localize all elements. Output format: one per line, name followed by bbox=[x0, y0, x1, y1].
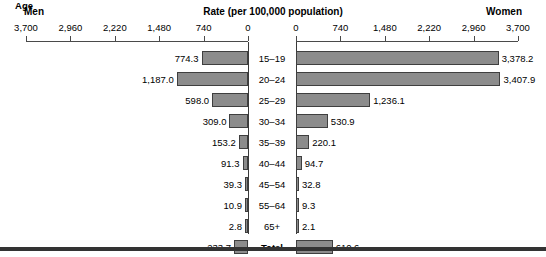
left-tick-label: 740 bbox=[196, 22, 212, 33]
chart-row: 598.025–291,236.1 bbox=[0, 90, 546, 111]
left-tick-mark bbox=[159, 36, 160, 41]
right-tick-mark bbox=[474, 36, 475, 41]
men-value-label: 1,187.0 bbox=[0, 69, 174, 90]
women-bar bbox=[296, 51, 499, 65]
chart-title: Rate (per 100,000 population) bbox=[0, 6, 546, 17]
left-tick-label: 2,220 bbox=[103, 22, 127, 33]
age-group-label: 25–29 bbox=[248, 90, 296, 111]
right-tick-mark bbox=[518, 36, 519, 41]
men-value-label: 598.0 bbox=[0, 90, 209, 111]
right-tick-mark bbox=[385, 36, 386, 41]
right-tick-label: 740 bbox=[332, 22, 348, 33]
chart-row: 1,187.020–243,407.9 bbox=[0, 69, 546, 90]
left-tick-label: 0 bbox=[245, 22, 250, 33]
left-tick-mark bbox=[115, 36, 116, 41]
chart-row: 153.235–39220.1 bbox=[0, 132, 546, 153]
women-value-label: 32.8 bbox=[302, 174, 546, 195]
women-bar bbox=[296, 93, 370, 107]
right-axis-line bbox=[296, 41, 518, 42]
age-group-label: 40–44 bbox=[248, 153, 296, 174]
population-pyramid-chart: Men Women Rate (per 100,000 population) … bbox=[0, 0, 546, 257]
right-tick-label: 2,960 bbox=[462, 22, 486, 33]
chart-row: 10.955–649.3 bbox=[0, 195, 546, 216]
age-group-label: 20–24 bbox=[248, 69, 296, 90]
left-tick-mark bbox=[248, 36, 249, 41]
right-tick-label: 3,700 bbox=[506, 22, 530, 33]
women-bar bbox=[296, 135, 309, 149]
left-axis-line bbox=[26, 41, 248, 42]
men-bar bbox=[239, 135, 248, 149]
right-tick-label: 1,480 bbox=[373, 22, 397, 33]
women-value-label: 530.9 bbox=[331, 111, 546, 132]
men-value-label: 91.3 bbox=[0, 153, 240, 174]
men-bar bbox=[202, 51, 248, 65]
men-value-label: 10.9 bbox=[0, 195, 242, 216]
left-tick-mark bbox=[204, 36, 205, 41]
left-tick-label: 2,960 bbox=[59, 22, 83, 33]
right-tick-label: 2,220 bbox=[417, 22, 441, 33]
age-group-label: 65+ bbox=[248, 216, 296, 237]
chart-row: 39.345–5432.8 bbox=[0, 174, 546, 195]
age-group-label: 35–39 bbox=[248, 132, 296, 153]
left-tick-label: 1,480 bbox=[147, 22, 171, 33]
men-bar bbox=[212, 93, 248, 107]
men-bar bbox=[177, 72, 248, 86]
right-tick-mark bbox=[340, 36, 341, 41]
age-group-label: 15–19 bbox=[248, 48, 296, 69]
age-group-label: 55–64 bbox=[248, 195, 296, 216]
men-value-label: 774.3 bbox=[0, 48, 199, 69]
men-value-label: 153.2 bbox=[0, 132, 236, 153]
right-tick-mark bbox=[429, 36, 430, 41]
women-bar bbox=[296, 219, 299, 233]
women-bar bbox=[296, 156, 302, 170]
left-tick-label: 3,700 bbox=[14, 22, 38, 33]
women-value-label: 2.1 bbox=[302, 216, 546, 237]
women-value-label: 9.3 bbox=[302, 195, 546, 216]
left-tick-mark bbox=[70, 36, 71, 41]
women-bar bbox=[296, 114, 328, 128]
right-tick-label: 0 bbox=[293, 22, 298, 33]
women-value-label: 3,407.9 bbox=[503, 69, 546, 90]
right-tick-mark bbox=[296, 36, 297, 41]
chart-row: 309.030–34530.9 bbox=[0, 111, 546, 132]
women-bar bbox=[296, 72, 500, 86]
age-group-label: 30–34 bbox=[248, 111, 296, 132]
left-tick-mark bbox=[26, 36, 27, 41]
women-bar bbox=[296, 177, 299, 191]
women-value-label: 94.7 bbox=[305, 153, 546, 174]
bottom-divider bbox=[0, 247, 546, 251]
women-value-label: 1,236.1 bbox=[373, 90, 546, 111]
men-value-label: 309.0 bbox=[0, 111, 226, 132]
chart-row: 2.865+2.1 bbox=[0, 216, 546, 237]
men-value-label: 39.3 bbox=[0, 174, 242, 195]
chart-row: 774.315–193,378.2 bbox=[0, 48, 546, 69]
men-bar bbox=[229, 114, 248, 128]
women-bar bbox=[296, 198, 299, 212]
women-value-label: 3,378.2 bbox=[502, 48, 546, 69]
women-value-label: 220.1 bbox=[312, 132, 546, 153]
men-value-label: 2.8 bbox=[0, 216, 242, 237]
chart-row: 91.340–4494.7 bbox=[0, 153, 546, 174]
age-group-label: 45–54 bbox=[248, 174, 296, 195]
